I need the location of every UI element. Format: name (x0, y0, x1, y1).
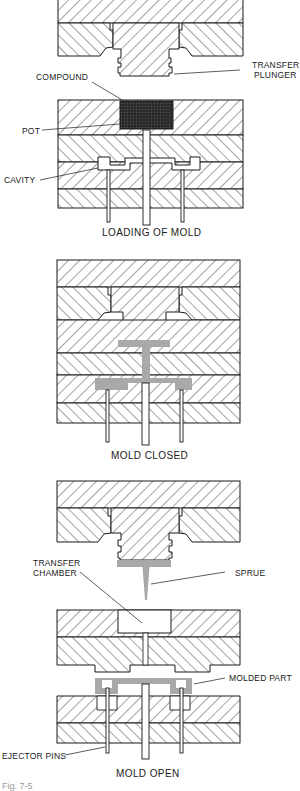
label-molded-part: MOLDED PART (229, 673, 292, 683)
caption-loading-of-mold: LOADING OF MOLD (102, 227, 201, 238)
upper-cavity-plate (57, 637, 240, 672)
sprue-channel (143, 633, 148, 665)
plunger-plate-left (58, 23, 113, 56)
ejector-pin-left (106, 390, 109, 442)
label-transfer-plunger-2: PLUNGER (254, 70, 297, 80)
ejector-plate (58, 189, 243, 208)
label-cavity: CAVITY (4, 175, 35, 185)
stage-mold-open (57, 481, 240, 759)
transfer-plunger (113, 23, 179, 76)
compound-charge (120, 101, 173, 129)
plunger-plate-left (57, 508, 111, 542)
caption-mold-closed: MOLD CLOSED (111, 450, 188, 461)
label-sprue: SPRUE (235, 568, 265, 578)
plunger-plate-right (179, 23, 243, 56)
label-ejector-pins: EJECTOR PINS (2, 751, 66, 761)
plunger-plate-right (179, 287, 240, 320)
center-pin (142, 383, 149, 445)
label-transfer-chamber-1: TRANSFER (33, 558, 80, 568)
sprue-piece (142, 560, 150, 600)
center-pin (142, 684, 149, 759)
top-platen (57, 260, 240, 287)
ejector-pin-left (106, 688, 109, 753)
stage-loading-of-mold (40, 0, 243, 225)
ejector-pin-right (181, 170, 184, 222)
top-platen (58, 0, 243, 23)
ejector-pin-right (180, 688, 183, 753)
ejector-pin-right (180, 390, 183, 442)
top-platen (57, 481, 240, 508)
transfer-plunger (111, 508, 179, 560)
ejector-pin-left (107, 170, 110, 222)
label-transfer-plunger-1: TRANSFER (252, 60, 299, 70)
label-compound: COMPOUND (36, 72, 88, 82)
center-pin (143, 130, 150, 225)
transfer-chamber (118, 610, 171, 633)
label-pot: POT (22, 126, 40, 136)
plunger-plate-left (57, 287, 111, 320)
stage-mold-closed (57, 260, 240, 445)
label-transfer-chamber-2: CHAMBER (33, 568, 77, 578)
caption-mold-open: MOLD OPEN (116, 768, 180, 779)
plunger-plate-right (179, 508, 240, 542)
figure-caption: Fig. 7-5 (2, 781, 33, 791)
lower-cavity-plate (58, 162, 243, 189)
